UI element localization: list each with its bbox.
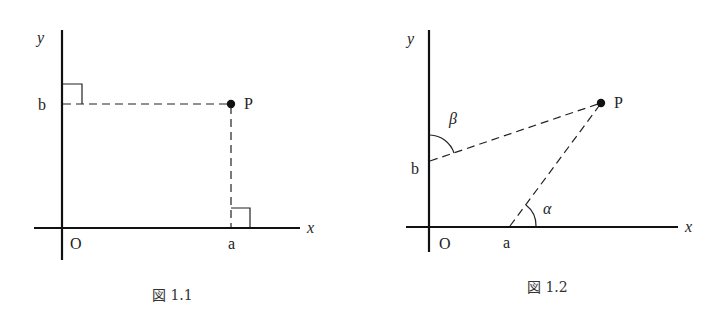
point-p-dot	[597, 99, 605, 107]
angle-alpha-arc	[526, 205, 536, 226]
angle-beta-label: β	[448, 110, 457, 128]
figures-canvas: y x b a O P 図 1.1 y x b a O P β α 図 1.2	[0, 0, 706, 314]
y-tick-label-b: b	[411, 160, 419, 177]
right-angle-mark-y	[63, 84, 82, 104]
angle-beta-arc	[430, 135, 454, 153]
y-axis-label: y	[35, 29, 45, 47]
point-p-dot	[227, 100, 235, 108]
figure-1-1: y x b a O P 図 1.1	[34, 29, 314, 303]
x-tick-label-a: a	[228, 235, 235, 252]
x-axis-label: x	[684, 218, 692, 235]
point-p-label: P	[244, 95, 253, 112]
point-p-label: P	[614, 94, 623, 111]
figure-1-2: y x b a O P β α 図 1.2	[405, 30, 692, 295]
y-tick-label-b: b	[38, 96, 46, 113]
caption-fig-1-2: 図 1.2	[527, 279, 568, 295]
y-axis-label: y	[405, 30, 415, 48]
x-tick-label-a: a	[503, 234, 510, 251]
right-angle-mark-x	[231, 208, 250, 227]
line-a-to-p	[510, 106, 599, 226]
angle-alpha-label: α	[543, 200, 552, 217]
caption-fig-1-1: 図 1.1	[152, 287, 193, 303]
x-axis-label: x	[306, 219, 314, 236]
origin-label: O	[439, 235, 451, 252]
origin-label: O	[70, 235, 82, 252]
